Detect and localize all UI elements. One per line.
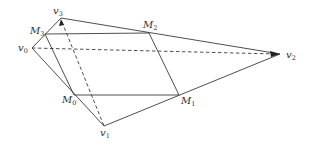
edge-m3-m2 — [45, 33, 149, 34]
label-m3: M3 — [29, 25, 44, 38]
arrowhead-v3-icon — [59, 19, 64, 26]
label-v3: v3 — [53, 5, 63, 18]
edge-m2-m1 — [149, 33, 179, 95]
label-v0: v0 — [18, 42, 28, 55]
label-m1: M1 — [180, 95, 195, 108]
edge-v1-v2 — [104, 54, 280, 126]
tetrahedron-diagram: v3 M3 v0 M2 v2 M0 M1 v1 — [0, 0, 311, 146]
edge-v0-v1 — [32, 48, 104, 126]
edge-v3-v2 — [61, 18, 280, 54]
edge-m0-m3 — [45, 34, 74, 95]
edge-v3-v1-hidden — [62, 22, 104, 126]
label-m2: M2 — [142, 19, 157, 32]
label-v1: v1 — [100, 127, 110, 140]
label-m0: M0 — [61, 94, 76, 107]
label-v2: v2 — [286, 49, 296, 62]
edge-v0-v2-hidden — [32, 48, 276, 54]
